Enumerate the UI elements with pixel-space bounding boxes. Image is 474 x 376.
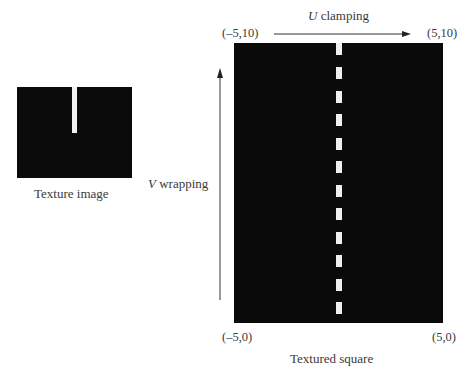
texture-image [17,87,132,178]
dash [336,185,342,197]
textured-square-caption: Textured square [290,351,373,367]
dash [336,67,342,79]
corner-top-right: (5,10) [427,26,457,41]
dash [336,279,342,291]
v-wrapping-arrow [217,68,223,300]
dash [336,302,342,314]
dash [336,232,342,244]
dash [336,208,342,220]
texture-white-slot [72,87,77,133]
corner-top-left: (–5,10) [222,26,258,41]
dash [336,91,342,103]
texture-image-caption: Texture image [34,186,109,202]
dash [336,255,342,267]
u-clamping-label: U clamping [308,8,369,24]
v-label-text: wrapping [156,176,208,191]
dash [336,161,342,173]
u-clamping-arrow [274,31,411,37]
dash [336,114,342,126]
corner-bottom-left: (–5,0) [222,330,252,345]
dash [336,138,342,150]
u-label-text: clamping [317,8,369,23]
u-variable: U [308,8,317,23]
v-variable: V [148,176,156,191]
corner-bottom-right: (5,0) [432,330,456,345]
textured-square [234,43,443,323]
dash [336,43,342,55]
v-wrapping-label: V wrapping [148,176,208,192]
